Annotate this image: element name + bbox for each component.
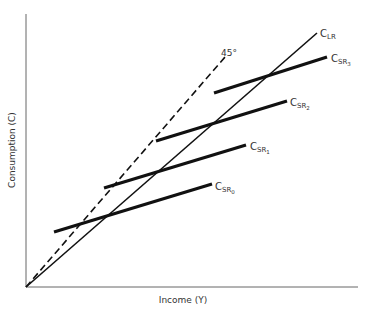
long-run-label: CLR: [320, 28, 336, 41]
x-axis-label: Income (Y): [159, 295, 208, 305]
long-run-consumption-line: [26, 33, 317, 287]
consumption-function-diagram: Consumption (C) Income (Y) 45° CLR CSR0 …: [0, 0, 369, 318]
short-run-consumption-line-3: [214, 57, 327, 93]
short-run-label-2: CSR2: [290, 97, 310, 111]
short-run-consumption-line-1: [104, 145, 246, 188]
y-axis-label: Consumption (C): [7, 112, 17, 188]
45-degree-line: [26, 57, 225, 287]
short-run-consumption-line-0: [54, 184, 212, 232]
45-degree-label: 45°: [221, 48, 237, 58]
short-run-label-0: CSR0: [215, 181, 235, 195]
short-run-consumption-line-2: [156, 101, 287, 141]
short-run-label-3: CSR3: [331, 53, 351, 67]
short-run-label-1: CSR1: [250, 141, 270, 155]
